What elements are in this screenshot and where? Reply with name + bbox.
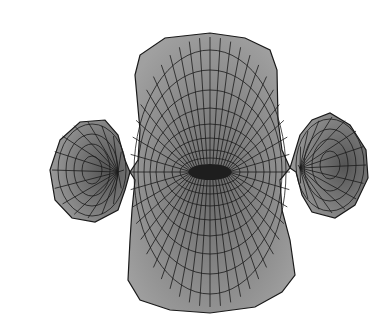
center-saddle-point	[188, 164, 232, 180]
mesh-surface	[0, 0, 391, 333]
